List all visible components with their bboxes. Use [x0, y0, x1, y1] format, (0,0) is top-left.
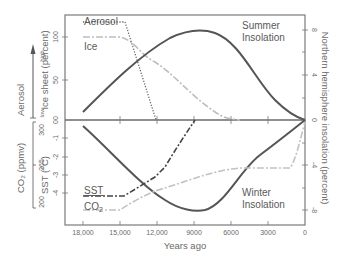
svg-text:-1: -1 — [52, 135, 59, 141]
co2-tick-labels: 300 265 200 — [38, 124, 45, 208]
x-tick-labels: 18,000 15,000 12,000 9000 6000 3000 0 — [72, 229, 307, 236]
winter-annotation-line1: Winter — [242, 187, 272, 198]
svg-text:18,000: 18,000 — [72, 229, 94, 236]
ice-annotation: Ice — [84, 41, 98, 52]
winter-insolation-series — [83, 120, 305, 211]
svg-text:100: 100 — [52, 31, 59, 43]
summer-annotation-line2: Insolation — [242, 32, 285, 43]
co2-axis-label: CO₂ (ppmv) — [15, 143, 26, 193]
summer-annotation-line1: Summer — [242, 20, 280, 31]
svg-text:9000: 9000 — [186, 229, 202, 236]
paleoclimate-chart: Aerosol Ice Summer Insolation SST CO2 Wi… — [0, 0, 340, 265]
left-tick-labels: 100 50 00 -1 -2 -3 -4 — [52, 31, 59, 196]
svg-text:-4: -4 — [52, 190, 59, 196]
svg-text:-8: -8 — [311, 207, 318, 213]
ice-sheet-axis-label: Ice sheet (percent) — [39, 30, 50, 109]
right-tick-labels: 8 4 0 -4 -8 — [311, 28, 318, 213]
aerosol-low-label: low — [39, 108, 45, 118]
right-axis-label: Northern hemisphere insolation (percent) — [320, 32, 331, 205]
ice-series — [83, 37, 240, 120]
svg-text:00: 00 — [52, 116, 59, 124]
arrow-up-icon — [31, 44, 36, 54]
svg-text:0: 0 — [303, 229, 307, 236]
co2-annotation: CO2 — [84, 201, 103, 213]
svg-text:200: 200 — [38, 196, 45, 208]
summer-insolation-series — [83, 31, 305, 120]
svg-text:-3: -3 — [52, 172, 59, 178]
svg-text:4: 4 — [311, 73, 318, 77]
aerosol-annotation: Aerosol — [84, 16, 118, 27]
svg-text:6000: 6000 — [223, 229, 239, 236]
x-axis-label: Years ago — [164, 240, 206, 251]
svg-text:300: 300 — [38, 124, 45, 136]
svg-text:15,000: 15,000 — [109, 229, 131, 236]
svg-text:-4: -4 — [311, 162, 318, 168]
svg-text:3000: 3000 — [260, 229, 276, 236]
svg-text:265: 265 — [38, 159, 45, 171]
svg-text:50: 50 — [52, 76, 59, 84]
svg-text:12,000: 12,000 — [146, 229, 168, 236]
sst-annotation: SST — [84, 185, 103, 196]
winter-annotation-line2: Insolation — [242, 199, 285, 210]
svg-text:0: 0 — [311, 118, 318, 122]
x-tick-marks — [83, 116, 268, 225]
svg-text:-2: -2 — [52, 154, 59, 160]
aerosol-axis-label: Aerosol — [15, 84, 26, 116]
aerosol-high-label: high — [39, 50, 45, 61]
svg-text:8: 8 — [311, 28, 318, 32]
